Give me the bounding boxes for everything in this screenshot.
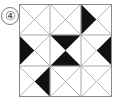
figure-label-circled-number-icon: ④ <box>1 7 19 25</box>
triangle-grid-svg <box>19 4 112 97</box>
filled-triangle-r1-c2-right <box>97 35 113 66</box>
filled-triangle-r1-c1-top <box>50 35 81 51</box>
figure-container: ④ <box>0 0 119 104</box>
filled-triangle-r1-c0-left <box>19 35 35 66</box>
filled-triangle-r0-c2-left <box>81 4 97 35</box>
filled-triangle-r1-c1-bottom <box>50 51 81 67</box>
filled-triangle-r2-c0-right <box>35 66 51 97</box>
triangle-grid <box>19 4 112 97</box>
